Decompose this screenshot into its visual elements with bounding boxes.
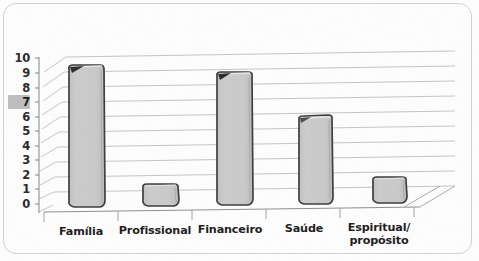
category-label-espiritual-proposito: Espiritual/ propósito (338, 221, 420, 247)
y-tick-1: 1 (8, 182, 30, 196)
y-tick-7: 7 (8, 95, 30, 109)
axis-depth-connectors (39, 57, 66, 212)
bar-profissional[interactable] (143, 184, 179, 206)
y-tick-4: 4 (8, 139, 30, 153)
bar-financeiro[interactable] (217, 72, 253, 205)
bar-saude[interactable] (299, 115, 333, 204)
category-label-espiritual-line1: Espiritual/ (348, 221, 411, 234)
bar-espiritual-proposito[interactable] (373, 177, 407, 203)
y-tick-6: 6 (8, 110, 30, 124)
bar-espiritual-body[interactable] (373, 177, 407, 203)
category-label-profissional-line1: Profissional (119, 224, 192, 237)
bar-saude-body[interactable] (299, 115, 333, 204)
y-tick-8: 8 (8, 81, 30, 95)
chart-floor-plane (404, 186, 455, 207)
y-tick-10: 10 (8, 51, 30, 65)
y-tick-3: 3 (8, 153, 30, 167)
y-tick-2: 2 (8, 168, 30, 182)
category-label-saude: Saúde (268, 222, 340, 235)
y-tick-5: 5 (8, 124, 30, 138)
bar-familia-body[interactable] (69, 65, 105, 207)
category-label-saude-line1: Saúde (285, 222, 323, 235)
bar-familia[interactable] (69, 65, 105, 207)
bar-financeiro-body[interactable] (217, 72, 253, 205)
bar-profissional-body[interactable] (143, 184, 179, 206)
category-label-financeiro: Financeiro (192, 223, 268, 236)
y-tick-9: 9 (8, 66, 30, 80)
category-label-espiritual-line2: propósito (349, 234, 408, 247)
category-label-profissional: Profissional (116, 224, 194, 237)
category-label-financeiro-line1: Financeiro (198, 223, 263, 236)
category-label-familia: Família (44, 225, 118, 238)
category-label-familia-line1: Família (59, 225, 103, 238)
y-axis-ticks (35, 58, 39, 204)
y-tick-0: 0 (8, 197, 30, 211)
